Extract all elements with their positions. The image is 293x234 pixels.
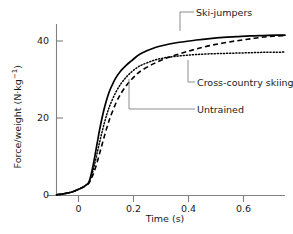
y-tick-label-40: 40 bbox=[20, 36, 49, 46]
chart-figure: 40 20 0 0 0.2 0.4 0.6 Force/weight (N·kg… bbox=[0, 0, 293, 234]
series-label-untrained: Untrained bbox=[197, 105, 244, 115]
y-tick-label-0: 0 bbox=[20, 190, 49, 200]
leader-line-ski-jumpers bbox=[180, 12, 194, 31]
series-label-cross-country-skiing: Cross-country skiing bbox=[197, 78, 293, 88]
x-tick-label-0: 0 bbox=[64, 204, 93, 214]
series-label-ski-jumpers: Ski-jumpers bbox=[196, 8, 252, 18]
y-axis-title-main: Force/weight (N·kg bbox=[12, 79, 23, 168]
leader-line-untrained bbox=[129, 79, 195, 109]
y-axis-title: Force/weight (N·kg−1) bbox=[13, 61, 23, 173]
leader-line-cross-country-skiing bbox=[188, 60, 195, 82]
y-axis-title-exponent: −1 bbox=[11, 69, 19, 79]
x-tick-label-0-6: 0.6 bbox=[229, 204, 258, 214]
x-tick-label-0-2: 0.2 bbox=[119, 204, 148, 214]
y-tick-label-20: 20 bbox=[20, 113, 49, 123]
series-line-untrained bbox=[57, 36, 286, 195]
y-axis-title-tail: ) bbox=[12, 65, 23, 69]
series-line-ski-jumpers bbox=[57, 35, 286, 195]
x-axis-title: Time (s) bbox=[120, 214, 210, 224]
